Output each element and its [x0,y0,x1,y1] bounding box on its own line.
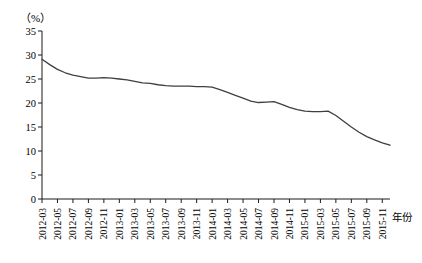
x-label-2015-01: 2015-01 [300,208,310,240]
x-label-2015-07: 2015-07 [347,208,357,240]
x-label-2015-09: 2015-09 [362,208,372,240]
y-label-35: 35 [26,26,37,37]
x-label-2013-11: 2013-11 [192,208,202,240]
x-axis-labels: 2012-032012-052012-072012-092012-112013-… [38,208,388,240]
line-chart: （%） 0 5 10 15 20 25 30 35 201 [0,0,422,263]
x-label-2012-05: 2012-05 [53,208,63,240]
x-label-2013-01: 2013-01 [115,208,125,240]
x-label-2014-07: 2014-07 [254,208,264,240]
x-label-2013-05: 2013-05 [146,208,156,240]
y-label-30: 30 [26,50,37,61]
y-label-15: 15 [26,122,37,133]
x-label-2014-03: 2014-03 [223,208,233,240]
x-label-2015-03: 2015-03 [316,208,326,240]
x-label-2012-11: 2012-11 [99,208,109,240]
y-label-25: 25 [26,74,37,85]
x-label-2013-03: 2013-03 [130,208,140,240]
x-label-2014-09: 2014-09 [270,208,280,240]
chart-container: （%） 0 5 10 15 20 25 30 35 201 [0,0,422,263]
x-label-2012-03: 2012-03 [38,208,48,240]
x-label-2012-09: 2012-09 [84,208,94,240]
x-label-2015-05: 2015-05 [331,208,341,240]
x-axis-title: 年份 [392,211,413,223]
x-label-2014-11: 2014-11 [285,208,295,240]
y-label-5: 5 [31,170,36,181]
y-label-10: 10 [26,146,37,157]
x-label-2014-05: 2014-05 [239,208,249,240]
x-label-2015-11: 2015-11 [378,208,388,240]
x-label-2013-07: 2013-07 [161,208,171,240]
x-label-2014-01: 2014-01 [208,208,218,240]
y-label-0: 0 [31,194,36,205]
x-label-2012-07: 2012-07 [68,208,78,240]
y-label-20: 20 [26,98,37,109]
y-axis-unit-label: （%） [20,12,51,24]
x-label-2013-09: 2013-09 [177,208,187,240]
